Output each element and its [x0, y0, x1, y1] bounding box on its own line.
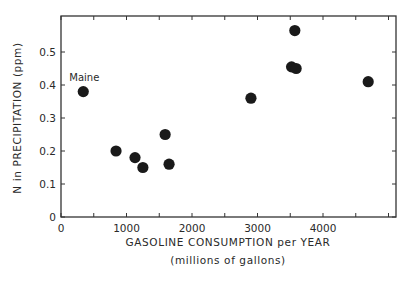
- y-tick-label: 0.1: [39, 178, 56, 190]
- y-axis-title: N in PRECIPITATION (ppm): [11, 42, 23, 193]
- data-point: [163, 159, 174, 170]
- x-axis-tick-labels: 01000200030004000: [58, 222, 337, 234]
- y-axis-ticks: [61, 52, 396, 217]
- plot-frame: [61, 16, 396, 217]
- point-label-maine: Maine: [69, 72, 99, 83]
- data-point: [291, 63, 302, 74]
- data-point: [137, 162, 148, 173]
- y-tick-label: 0.5: [39, 46, 56, 58]
- x-axis-title: GASOLINE CONSUMPTION per YEAR: [126, 236, 331, 248]
- data-points: [78, 25, 374, 173]
- data-point: [160, 129, 171, 140]
- scatter-chart: 01000200030004000 00.10.20.30.40.5 Maine…: [0, 0, 413, 285]
- data-point: [363, 76, 374, 87]
- plot-border: [61, 16, 396, 217]
- data-point: [245, 93, 256, 104]
- x-tick-label: 2000: [179, 222, 206, 234]
- x-tick-label: 4000: [310, 222, 337, 234]
- data-point: [289, 25, 300, 36]
- y-tick-label: 0.2: [39, 145, 56, 157]
- data-point: [78, 86, 89, 97]
- y-tick-label: 0.3: [39, 112, 56, 124]
- x-tick-label: 1000: [113, 222, 140, 234]
- x-axis-subtitle: (millions of gallons): [170, 254, 286, 266]
- annotations: Maine: [69, 72, 99, 83]
- y-tick-label: 0: [49, 211, 56, 223]
- x-axis-ticks: [61, 16, 389, 217]
- data-point: [129, 152, 140, 163]
- x-tick-label: 0: [58, 222, 65, 234]
- data-point: [110, 145, 121, 156]
- y-axis-tick-labels: 00.10.20.30.40.5: [39, 46, 56, 223]
- y-tick-label: 0.4: [39, 79, 56, 91]
- x-tick-label: 3000: [244, 222, 271, 234]
